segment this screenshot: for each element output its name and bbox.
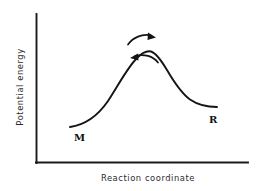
reaction-coordinate-figure: Potential energy Reaction coordinate M R <box>0 0 257 191</box>
reverse-reaction-arrow-head <box>130 54 139 61</box>
reactant-label-m: M <box>74 132 85 143</box>
x-axis-label: Reaction coordinate <box>92 173 204 183</box>
potential-energy-curve <box>70 51 217 127</box>
forward-reaction-arrow-head <box>148 33 157 41</box>
product-label-r: R <box>209 114 217 125</box>
y-axis-label: Potential energy <box>15 41 25 133</box>
plot-canvas <box>0 0 257 191</box>
